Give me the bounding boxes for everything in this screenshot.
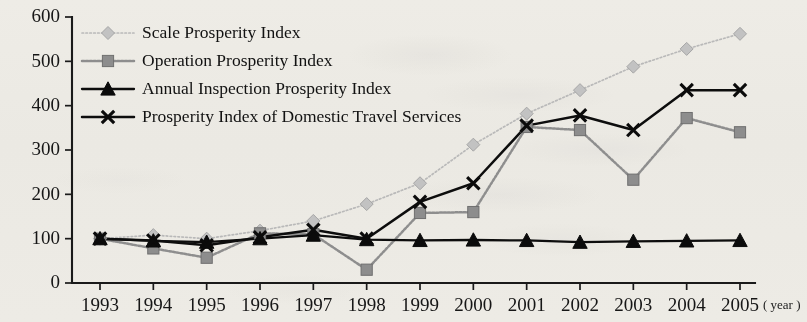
x-axis-unit-label: ( year ) bbox=[763, 297, 801, 312]
data-point-scale-prosperity-index bbox=[680, 42, 693, 55]
x-axis-tick-label: 2004 bbox=[668, 294, 707, 315]
legend-label-annual-inspection-prosperity-index: Annual Inspection Prosperity Index bbox=[142, 78, 392, 98]
legend-label-scale-prosperity-index: Scale Prosperity Index bbox=[142, 22, 301, 42]
y-axis-tick-label: 600 bbox=[32, 5, 61, 26]
chart-svg: 6005004003002001000199319941995199619971… bbox=[0, 0, 807, 322]
x-axis-tick-label: 1996 bbox=[241, 294, 279, 315]
legend-diamond-marker bbox=[102, 27, 115, 40]
y-axis-tick-label: 400 bbox=[32, 94, 61, 115]
y-axis-tick-label: 100 bbox=[32, 227, 61, 248]
legend-label-operation-prosperity-index: Operation Prosperity Index bbox=[142, 50, 333, 70]
data-point-scale-prosperity-index bbox=[414, 177, 427, 190]
data-point-scale-prosperity-index bbox=[360, 198, 373, 211]
data-point-scale-prosperity-index bbox=[734, 27, 747, 40]
legend-square-marker bbox=[102, 55, 113, 66]
legend-label-prosperity-index-of-domestic-travel-services: Prosperity Index of Domestic Travel Serv… bbox=[142, 106, 462, 126]
data-point-prosperity-index-of-domestic-travel-services bbox=[414, 196, 426, 208]
data-point-operation-prosperity-index bbox=[414, 207, 425, 218]
data-point-operation-prosperity-index bbox=[201, 252, 212, 263]
y-axis-tick-label: 300 bbox=[32, 138, 61, 159]
x-axis-tick-label: 2003 bbox=[614, 294, 652, 315]
line-chart: 6005004003002001000199319941995199619971… bbox=[0, 0, 807, 322]
data-point-operation-prosperity-index bbox=[574, 124, 585, 135]
x-axis-tick-label: 1993 bbox=[81, 294, 119, 315]
data-point-scale-prosperity-index bbox=[520, 107, 533, 120]
data-point-operation-prosperity-index bbox=[468, 206, 479, 217]
x-axis-tick-label: 2001 bbox=[508, 294, 546, 315]
y-axis-tick-label: 0 bbox=[51, 271, 61, 292]
x-axis-tick-label: 2000 bbox=[454, 294, 492, 315]
x-axis-tick-label: 2002 bbox=[561, 294, 599, 315]
x-axis-tick-label: 1995 bbox=[188, 294, 226, 315]
data-point-operation-prosperity-index bbox=[681, 112, 692, 123]
x-axis-tick-label: 1998 bbox=[348, 294, 386, 315]
data-point-operation-prosperity-index bbox=[628, 174, 639, 185]
data-point-operation-prosperity-index bbox=[734, 127, 745, 138]
x-axis-tick-label: 1999 bbox=[401, 294, 439, 315]
data-point-prosperity-index-of-domestic-travel-services bbox=[467, 177, 479, 189]
data-point-operation-prosperity-index bbox=[361, 264, 372, 275]
x-axis-tick-label: 1997 bbox=[294, 294, 332, 315]
y-axis-tick-label: 200 bbox=[32, 183, 61, 204]
data-point-scale-prosperity-index bbox=[467, 138, 480, 151]
data-point-scale-prosperity-index bbox=[627, 60, 640, 73]
x-axis-tick-label: 2005 bbox=[721, 294, 759, 315]
x-axis-tick-label: 1994 bbox=[134, 294, 173, 315]
y-axis-tick-label: 500 bbox=[32, 50, 61, 71]
data-point-scale-prosperity-index bbox=[574, 84, 587, 97]
